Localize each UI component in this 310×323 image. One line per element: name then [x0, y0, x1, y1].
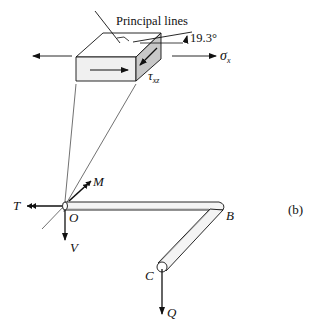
angle-arc-icon	[187, 36, 188, 44]
moment-label: M	[92, 174, 105, 189]
point-b-label: B	[226, 208, 234, 223]
angle-label: 19.3°	[190, 31, 217, 45]
panel-label: (b)	[288, 202, 303, 217]
point-o-label: O	[69, 210, 79, 225]
torque-label: T	[13, 198, 21, 213]
stress-element-diagram: Principal lines 19.3° σx τxz T M O V B C…	[0, 0, 310, 323]
element-front-face	[76, 57, 136, 81]
bar-end-o	[63, 202, 68, 210]
bar-segment-bc	[158, 209, 223, 271]
bent-bar	[63, 202, 224, 272]
point-c-label: C	[145, 268, 154, 283]
moment-arrow	[69, 181, 91, 201]
shear-stress-label: τxz	[148, 68, 160, 85]
load-label: Q	[167, 305, 177, 320]
projection-line-left	[64, 84, 76, 212]
shear-force-label: V	[70, 240, 80, 255]
normal-stress-label: σx	[220, 48, 231, 65]
principal-lines-label: Principal lines	[116, 14, 188, 28]
